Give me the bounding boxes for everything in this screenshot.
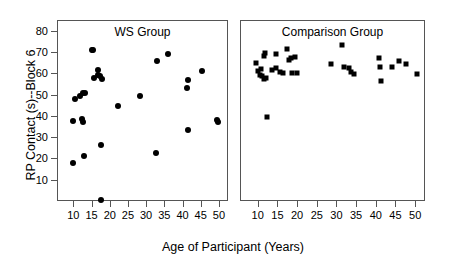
x-tick-mark <box>415 201 416 207</box>
data-point <box>185 127 191 133</box>
data-point <box>294 70 299 75</box>
data-point <box>70 160 76 166</box>
x-tick-mark <box>183 201 184 207</box>
y-tick-label: 40 <box>22 110 48 122</box>
y-tick-label: 30 <box>22 131 48 143</box>
x-tick-label: 50 <box>207 209 231 221</box>
data-point <box>215 119 221 125</box>
data-point <box>264 76 269 81</box>
panel-ws-group: WS Group <box>57 20 228 201</box>
data-point <box>115 103 121 109</box>
x-tick-mark <box>258 201 259 207</box>
y-tick-label: 80 <box>22 25 48 37</box>
data-point <box>259 66 264 71</box>
x-axis-label: Age of Participant (Years) <box>0 240 466 254</box>
data-point <box>292 55 297 60</box>
data-point <box>377 55 382 60</box>
x-tick-label: 50 <box>403 209 427 221</box>
data-point <box>378 65 383 70</box>
data-point <box>265 114 270 119</box>
data-point <box>185 77 191 83</box>
data-point <box>184 85 190 91</box>
data-point <box>199 68 205 74</box>
x-tick-mark <box>336 201 337 207</box>
x-tick-mark <box>92 201 93 207</box>
x-tick-mark <box>201 201 202 207</box>
data-point <box>81 153 87 159</box>
x-tick-mark <box>297 201 298 207</box>
data-point <box>329 61 334 66</box>
x-tick-mark <box>164 201 165 207</box>
data-point <box>253 60 258 65</box>
x-tick-mark <box>128 201 129 207</box>
data-point <box>90 47 96 53</box>
data-point <box>153 150 159 156</box>
x-tick-mark <box>277 201 278 207</box>
data-point <box>98 197 104 203</box>
x-tick-mark <box>73 201 74 207</box>
data-point <box>351 71 356 76</box>
plot-area-comparison <box>241 21 424 200</box>
y-tick-label: 70 <box>22 46 48 58</box>
panel-comparison-group: Comparison Group <box>240 20 425 201</box>
data-point <box>403 61 408 66</box>
data-point <box>414 72 419 77</box>
x-tick-mark <box>395 201 396 207</box>
y-tick-label: 10 <box>22 174 48 186</box>
x-tick-mark <box>110 201 111 207</box>
y-tick-label: 20 <box>22 152 48 164</box>
scatter-figure: RP Contact (s)--Block 6 1020304050607080… <box>0 0 466 273</box>
x-tick-mark <box>219 201 220 207</box>
data-point <box>154 58 160 64</box>
data-point <box>82 90 88 96</box>
data-point <box>263 50 268 55</box>
plot-area-ws <box>58 21 227 200</box>
data-point <box>340 43 345 48</box>
data-point <box>99 76 105 82</box>
data-point <box>137 93 143 99</box>
data-point <box>396 59 401 64</box>
data-point <box>70 118 76 124</box>
x-tick-mark <box>317 201 318 207</box>
y-tick-label: 50 <box>22 89 48 101</box>
data-point <box>165 51 171 57</box>
data-point <box>80 119 86 125</box>
data-point <box>280 71 285 76</box>
x-tick-mark <box>356 201 357 207</box>
y-tick-label: 60 <box>22 67 48 79</box>
data-point <box>273 52 278 57</box>
data-point <box>98 142 104 148</box>
x-tick-mark <box>376 201 377 207</box>
data-point <box>389 65 394 70</box>
x-tick-mark <box>146 201 147 207</box>
data-point <box>379 78 384 83</box>
data-point <box>285 46 290 51</box>
